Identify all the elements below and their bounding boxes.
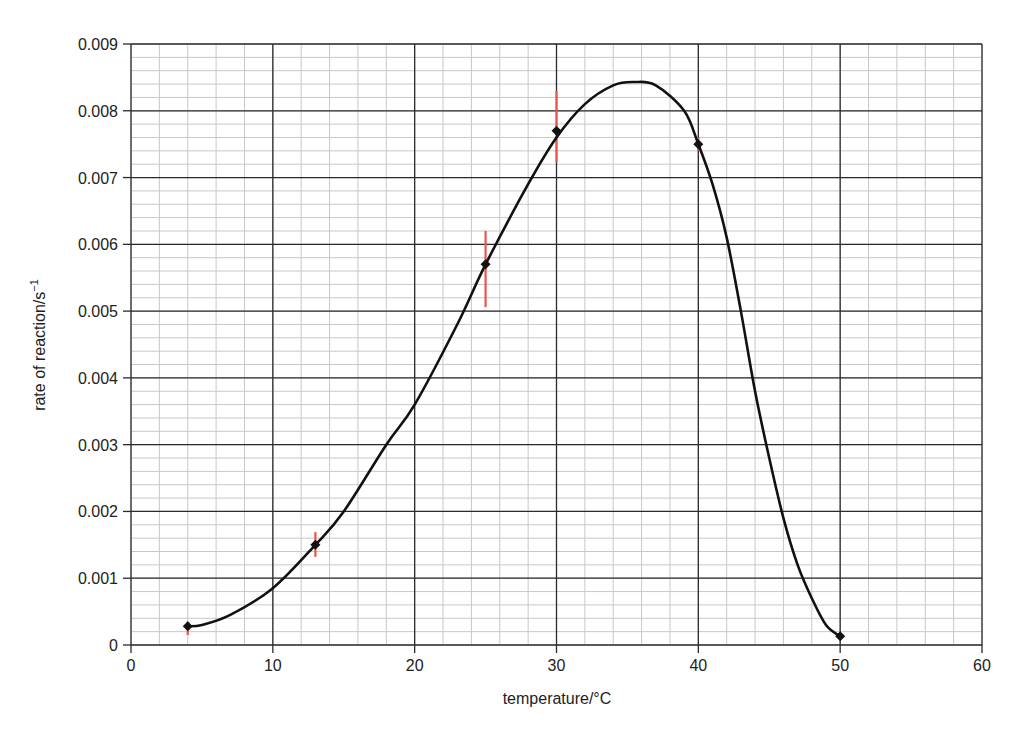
x-axis-title: temperature/°C: [503, 690, 612, 707]
y-tick-label: 0.006: [78, 236, 118, 253]
data-point: [183, 621, 193, 631]
data-point: [693, 139, 703, 149]
data-markers: [183, 126, 845, 642]
y-axis-title-superscript: −1: [28, 279, 40, 292]
y-tick-label: 0.004: [78, 370, 118, 387]
x-tick-label: 10: [264, 657, 282, 674]
x-tick-label: 50: [831, 657, 849, 674]
y-tick-label: 0.005: [78, 303, 118, 320]
x-tick-label: 30: [548, 657, 566, 674]
y-tick-label: 0.002: [78, 503, 118, 520]
x-tick-label: 0: [127, 657, 136, 674]
y-tick-label: 0.008: [78, 103, 118, 120]
y-tick-label: 0.009: [78, 36, 118, 53]
y-axis-title-main: rate of reaction/s: [31, 292, 48, 411]
best-fit-curve: [188, 82, 840, 636]
y-tick-label: 0.003: [78, 437, 118, 454]
y-tick-labels: 00.0010.0020.0030.0040.0050.0060.0070.00…: [78, 36, 118, 654]
x-tick-label: 20: [406, 657, 424, 674]
y-tick-label: 0.001: [78, 570, 118, 587]
x-tick-labels: 0102030405060: [127, 657, 991, 674]
rate-vs-temperature-chart: 0102030405060 00.0010.0020.0030.0040.005…: [0, 0, 1021, 734]
data-point: [481, 259, 491, 269]
x-tick-label: 60: [973, 657, 991, 674]
y-tick-label: 0: [109, 637, 118, 654]
x-tick-label: 40: [689, 657, 707, 674]
y-axis-title: rate of reaction/s−1: [28, 279, 48, 411]
y-tick-label: 0.007: [78, 170, 118, 187]
axis-ticks: [123, 44, 982, 653]
